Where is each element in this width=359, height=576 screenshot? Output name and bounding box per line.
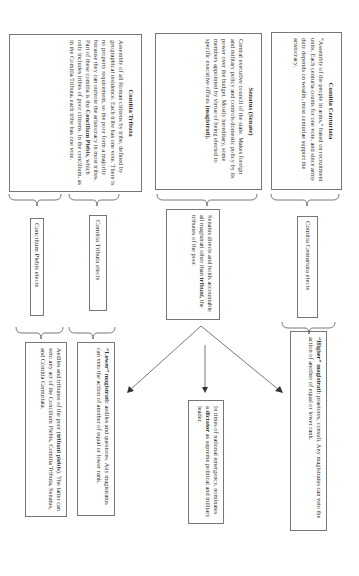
- comitia-tributa-box: Comitia Tributa Assembly of all Roman ci…: [9, 34, 142, 192]
- diagram-canvas: Comitia Centuriata “Assembly of the peop…: [0, 0, 359, 576]
- senatus-title: Senatus (Senate): [247, 39, 255, 184]
- higher-magistrati-bold: “Higher” magistrati:: [316, 337, 323, 394]
- lower-magistrati-box: “Lower” magistrati: aediles and questore…: [77, 342, 115, 516]
- centuriata-elects-label: Comitia Centuriata elects: [303, 221, 311, 290]
- centuriata-elects-box: Comitia Centuriata elects: [297, 216, 318, 318]
- brace-icon: [271, 194, 339, 206]
- comitia-centuriata-title: Comitia Centuriata: [327, 38, 335, 184]
- arrow-head-icon: [202, 387, 208, 393]
- dictator-box: In times of national emergency, nominate…: [188, 400, 224, 524]
- arrow-head-icon: [127, 386, 134, 393]
- senate-accountability-box: Senatus directs and holds accountable al…: [166, 209, 220, 320]
- arrow-head-icon: [275, 386, 283, 393]
- brace-icon: [16, 327, 63, 339]
- aediles-bold: tribuni plebis: [56, 434, 63, 471]
- brace-icon: [9, 194, 61, 206]
- senatus-box: Senatus (Senate) Central executive counc…: [155, 33, 262, 190]
- comitia-centuriata-box: Comitia Centuriata “Assembly of the peop…: [271, 32, 342, 190]
- tributa-elects-box: Comitia Tributa elects: [89, 215, 107, 311]
- aediles-text-pre: Aediles and tribunes of the poor (: [56, 348, 63, 434]
- aediles-tribunes-box: Aediles and tribunes of the poor (tribun…: [25, 342, 67, 517]
- comitia-tributa-title: Comitia Tributa: [127, 40, 135, 186]
- concilium-elects-label: Concilium Plebis elects: [33, 223, 41, 287]
- comitia-centuriata-text: “Assembly of the people in arms,” based …: [293, 38, 325, 182]
- concilium-plebis-bold: Concilium Plebis,: [85, 110, 92, 158]
- lower-magistrati-bold: “Lower” magistrati:: [104, 348, 111, 404]
- brace-icon: [157, 194, 257, 206]
- higher-magistrati-box: “Higher” magistrati: praetores, consuli.…: [290, 331, 327, 531]
- senate-accountability-text-pre: Senatus directs and holds accountable al…: [199, 215, 214, 312]
- brace-icon: [69, 327, 115, 339]
- brace-icon: [69, 194, 119, 206]
- tributa-elects-label: Comitia Tributa elects: [94, 220, 102, 280]
- concilium-elects-box: Concilium Plebis elects: [30, 218, 44, 316]
- dictator-bold: dictator: [205, 410, 212, 432]
- senatus-text-bold: (magistrati).: [205, 105, 212, 139]
- senate-accountability-bold: tribuni,: [199, 277, 206, 298]
